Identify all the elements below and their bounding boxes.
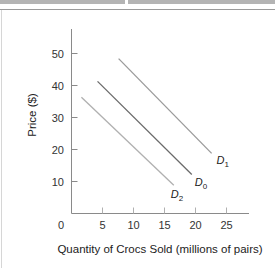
y-tick-label: 30 [52, 112, 64, 124]
curve-label-d0: D0 [195, 176, 208, 191]
curve-label-d1: D1 [217, 154, 230, 169]
x-tick-label: 0 [58, 219, 64, 231]
x-axis-title: Quantity of Crocs Sold (millions of pair… [57, 243, 262, 255]
y-axis-title: Price ($) [26, 93, 38, 137]
demand-curves: D1D0D2 [81, 59, 229, 204]
demand-curve-d0 [98, 81, 192, 174]
x-tick-label: 25 [220, 219, 232, 231]
x-tick-label: 5 [99, 219, 105, 231]
y-tick-label: 50 [52, 48, 64, 60]
demand-shift-chart: 1020304050 0510152025 D1D0D2 Price ($) Q… [0, 0, 275, 268]
y-ticks: 1020304050 [52, 48, 78, 188]
axes [72, 29, 250, 214]
y-tick-label: 20 [52, 144, 64, 156]
demand-curve-d1 [119, 59, 212, 154]
x-tick-label: 15 [158, 219, 170, 231]
x-tick-label: 20 [189, 219, 201, 231]
x-tick-label: 10 [127, 219, 139, 231]
x-ticks: 0510152025 [58, 208, 233, 232]
y-tick-label: 40 [52, 80, 64, 92]
curve-label-d2: D2 [171, 188, 184, 203]
y-tick-label: 10 [52, 176, 64, 188]
